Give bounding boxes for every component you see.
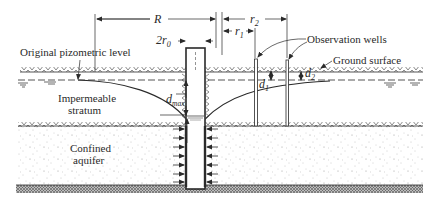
bottom-impermeable-layer xyxy=(16,185,423,193)
label-impermeable-stratum-top: Impermeable xyxy=(58,92,116,104)
observation-well-1 xyxy=(255,59,258,126)
leader-observation-well-2 xyxy=(289,42,307,59)
label-aquifer: aquifer xyxy=(73,154,104,166)
aquifer-diagram: R r2 r1 2r0 Original pizometric level Ob… xyxy=(0,0,438,221)
water-level-symbols xyxy=(18,82,420,87)
label-2r0: 2r0 xyxy=(156,33,171,49)
pumping-well xyxy=(182,48,209,189)
observation-well-2 xyxy=(286,60,289,126)
label-dmax: dmax xyxy=(166,92,185,108)
ground-surface-layer xyxy=(20,67,423,72)
label-r2: r2 xyxy=(250,12,259,28)
leader-observation-well-1 xyxy=(258,39,306,57)
aquifer-top-boundary xyxy=(18,122,423,127)
label-impermeable-stratum-top-2: stratum xyxy=(68,104,101,116)
label-r1: r1 xyxy=(235,24,244,40)
label-ground-surface: Ground surface xyxy=(333,54,401,66)
label-confined: Confined xyxy=(70,142,111,154)
label-original-piezometric-level: Original pizometric level xyxy=(20,46,131,58)
label-R: R xyxy=(153,12,162,26)
leader-ground-surface xyxy=(321,61,332,68)
label-d1: d1 xyxy=(259,77,269,93)
label-observation-wells: Observation wells xyxy=(307,33,387,45)
